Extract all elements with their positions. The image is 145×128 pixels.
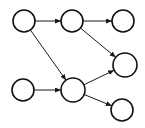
graph-edge-top-middle-to-middle-right [80,28,115,57]
graph-node-top-left [13,10,35,32]
diagram-canvas [0,0,145,128]
graph-edge-top-left-to-bottom-middle [30,30,66,80]
graph-node-bottom-left [12,79,34,101]
graph-edge-bottom-middle-to-middle-right [84,70,114,85]
graph-diagram [0,0,145,128]
graph-node-middle-right [113,53,137,77]
graph-node-top-right [112,10,134,32]
graph-node-top-middle [61,10,83,32]
graph-node-bottom-middle [61,78,85,102]
graph-edge-bottom-middle-to-bottom-right [84,95,112,106]
graph-node-bottom-right [111,99,133,121]
